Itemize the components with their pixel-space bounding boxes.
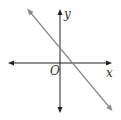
coordinate-plane: y x O [0,0,121,120]
x-axis-left-arrow-icon [8,61,14,66]
y-axis-down-arrow-icon [58,107,63,113]
y-axis [58,9,63,113]
graph-canvas [0,0,121,120]
x-axis-right-arrow-icon [106,61,112,66]
sloped-line [27,9,113,112]
y-axis-label: y [64,8,71,20]
y-axis-up-arrow-icon [58,9,63,15]
x-axis-label: x [106,67,113,79]
origin-label: O [50,65,60,77]
